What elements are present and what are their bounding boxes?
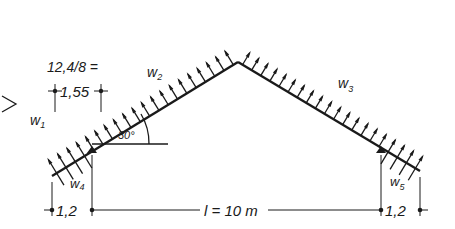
load-label-w1: w1: [30, 112, 45, 130]
span-dimension: l = 10 m: [204, 202, 258, 219]
top-dimension-formula: 12,4/8 =: [47, 59, 98, 75]
pitch-angle-indicator: 30°: [92, 114, 168, 144]
top-dimension: 12,4/8 = 1,55: [47, 59, 108, 112]
load-label-w5: w5: [390, 174, 405, 192]
wind-direction-marker: [2, 96, 16, 112]
load-label-w2: w2: [147, 64, 162, 82]
load-label-w3: w3: [338, 75, 353, 94]
load-label-w4: w4: [70, 176, 84, 192]
top-dimension-value: 1,55: [60, 83, 90, 100]
roof-wind-load-diagram: 30° w1 w2 w3 w4 w5 12,4/8 = 1,55: [0, 0, 455, 229]
wind-load-arrows-right: [243, 51, 424, 180]
pitch-angle-label: 30°: [118, 129, 135, 141]
bottom-dimension: 1,2 l = 10 m 1,2: [44, 155, 428, 219]
right-overhang-dimension: 1,2: [385, 202, 407, 219]
left-overhang-dimension: 1,2: [56, 202, 78, 219]
roof-outline: [52, 62, 420, 176]
